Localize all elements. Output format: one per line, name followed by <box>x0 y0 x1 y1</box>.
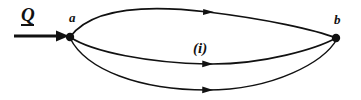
middle-branch-arrowhead <box>202 61 213 68</box>
figure-canvas: Q a b (i) <box>0 0 361 100</box>
source-label-Q: Q <box>21 5 35 24</box>
middle-branch-label: (i) <box>193 41 207 56</box>
node-a-dot <box>66 33 74 41</box>
node-b-dot <box>332 34 340 42</box>
diagram-svg <box>0 0 361 100</box>
top-branch-arrowhead <box>203 9 214 15</box>
source-label-Q-underline <box>21 24 34 26</box>
node-b-label: b <box>334 13 341 26</box>
bottom-branch-arrowhead <box>202 87 213 94</box>
node-a-label: a <box>69 11 76 24</box>
top-branch-curve <box>70 9 336 38</box>
